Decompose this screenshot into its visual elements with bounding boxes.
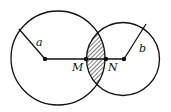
label-a: a [36, 36, 43, 49]
small-center-dot [122, 57, 126, 61]
point-m-dot [84, 57, 88, 61]
label-m: M [71, 61, 84, 74]
large-center-dot [43, 57, 47, 61]
label-n: N [107, 61, 118, 74]
label-b: b [139, 42, 146, 55]
two-circles-diagram: a b M N [0, 0, 171, 112]
